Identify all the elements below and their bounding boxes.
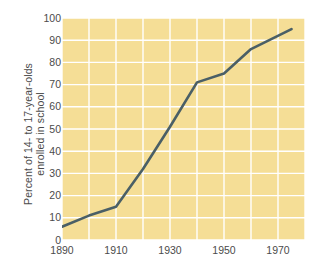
x-tick-label: 1970: [253, 245, 303, 256]
line-chart: Percent of 14- to 17-year-olds enrolled …: [0, 0, 323, 270]
y-tick-label: 40: [21, 146, 61, 157]
plot-area: [62, 18, 305, 240]
y-tick-label: 70: [21, 79, 61, 90]
y-tick-label: 10: [21, 212, 61, 223]
x-tick-label: 1950: [199, 245, 249, 256]
x-tick-label: 1930: [145, 245, 195, 256]
y-tick-label: 30: [21, 168, 61, 179]
y-tick-label: 100: [21, 13, 61, 24]
x-tick-label: 1890: [37, 245, 87, 256]
y-tick-label: 50: [21, 124, 61, 135]
y-tick-label: 90: [21, 35, 61, 46]
y-tick-label: 80: [21, 57, 61, 68]
series-line-0: [62, 29, 292, 227]
y-tick-label: 60: [21, 101, 61, 112]
data-series-line: [62, 18, 305, 240]
x-tick-label: 1910: [91, 245, 141, 256]
y-tick-label: 20: [21, 190, 61, 201]
